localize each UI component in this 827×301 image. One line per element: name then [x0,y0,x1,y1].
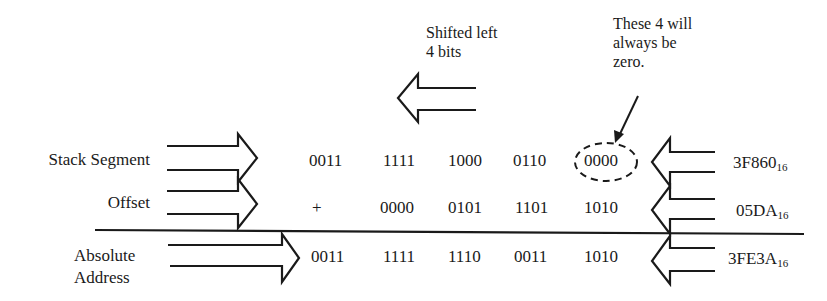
hex-base-subscript: 16 [776,161,787,173]
zero-note-line: always be [613,33,692,52]
segment-offset-diagram: Shifted left 4 bits These 4 will always … [0,0,827,301]
absolute-address-arrow-icon [168,234,299,282]
hex-value-stack-segment: 3F86016 [733,153,787,177]
row-label-offset: Offset [108,193,150,213]
hex-digits: 05DA [736,201,778,220]
shift-note-line: Shifted left [426,23,498,42]
hex-3fe3a-arrow-icon [652,236,715,284]
hex-value-absolute-address: 3FE3A16 [728,249,788,273]
zero-note-pointer-line [619,96,638,136]
hex-value-offset: 05DA16 [736,201,789,225]
row-label-stack-segment: Stack Segment [48,150,150,170]
nibble-zero: 0000 [584,151,618,171]
shift-note: Shifted left 4 bits [426,23,498,61]
nibble: 0011 [309,151,342,171]
zero-note-line: These 4 will [613,14,692,33]
hex-3f860-arrow-icon [652,138,715,186]
plus-operator: + [312,198,322,218]
nibble: 0110 [513,151,546,171]
nibble: 0101 [448,198,482,218]
shift-note-line: 4 bits [426,42,498,61]
hex-base-subscript: 16 [778,209,789,221]
offset-arrow-icon [167,179,257,228]
row-label-address: Address [74,268,130,288]
nibble: 1111 [383,247,415,267]
nibble: 1111 [383,151,415,171]
shift-left-arrow-icon [398,74,476,122]
nibble: 0011 [514,247,547,267]
nibble: 0011 [311,247,344,267]
nibble: 1101 [515,198,548,218]
hex-digits: 3FE3A [728,249,777,268]
hex-base-subscript: 16 [777,257,788,269]
zero-note: These 4 will always be zero. [613,14,692,71]
zero-note-pointer-arrowhead-icon [614,130,624,143]
zero-note-line: zero. [613,52,692,71]
stack-segment-arrow-icon [167,134,257,182]
hex-05da-arrow-icon [652,186,715,234]
sum-divider-line [95,230,804,234]
hex-digits: 3F860 [733,153,776,172]
nibble: 0000 [380,198,414,218]
row-label-absolute: Absolute [74,246,135,266]
nibble: 1110 [448,247,481,267]
nibble: 1010 [584,247,618,267]
nibble: 1000 [448,151,482,171]
nibble: 1010 [584,198,618,218]
